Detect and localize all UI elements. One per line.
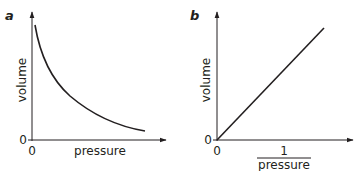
panel-a: a volume 0 0 pressure — [5, 8, 166, 158]
panel-b: b volume 0 0 1 pressure — [190, 8, 353, 171]
figure: a volume 0 0 pressure b volume 0 0 1 pre… — [0, 0, 361, 171]
panel-a-y-axis-label: volume — [15, 58, 29, 102]
panel-a-x-zero: 0 — [28, 144, 36, 158]
panel-a-curve — [35, 25, 145, 131]
panel-b-y-axis-label: volume — [199, 58, 213, 102]
panel-b-y-zero: 0 — [204, 133, 212, 147]
panel-b-x-zero: 0 — [213, 144, 221, 158]
panel-a-x-axis-label: pressure — [74, 144, 126, 158]
panel-a-y-zero: 0 — [19, 133, 27, 147]
panel-b-label: b — [190, 8, 199, 23]
panel-b-x-axis-label-denominator: pressure — [258, 158, 310, 171]
panel-b-x-axis-label-numerator: 1 — [280, 144, 288, 158]
panel-a-label: a — [5, 8, 14, 23]
panel-b-line — [217, 28, 324, 140]
